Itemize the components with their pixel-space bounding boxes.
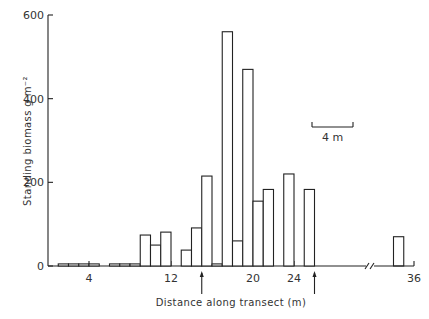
bar <box>58 264 68 266</box>
biomass-histogram: 0200400600 412202436 4 m Standing biomas… <box>0 0 429 319</box>
bar <box>120 264 130 266</box>
bar <box>263 189 273 266</box>
bar <box>130 264 140 266</box>
bar <box>253 201 263 266</box>
bar <box>69 264 79 266</box>
bar <box>243 69 253 266</box>
x-tick-label: 24 <box>287 272 301 285</box>
bar <box>284 174 294 266</box>
arrowhead-icon <box>313 271 317 277</box>
bar <box>181 250 191 266</box>
arrowhead-icon <box>200 271 204 277</box>
bar <box>110 264 120 266</box>
bar <box>151 245 161 266</box>
x-tick-label: 4 <box>86 272 93 285</box>
y-tick-label: 600 <box>23 9 44 22</box>
bar <box>89 264 99 266</box>
bar <box>202 176 212 266</box>
bar <box>394 237 404 266</box>
bar <box>140 235 150 266</box>
x-axis-label: Distance along transect (m) <box>156 297 307 308</box>
bar <box>304 189 314 266</box>
x-tick-label: 36 <box>407 272 421 285</box>
bar <box>222 32 232 266</box>
bar <box>212 264 222 266</box>
scale-bar-label: 4 m <box>322 131 343 144</box>
y-axis-label: Standing biomass g m⁻² <box>22 76 33 206</box>
bar <box>161 232 171 266</box>
bar <box>233 241 243 266</box>
x-tick-label: 20 <box>246 272 260 285</box>
y-tick-label: 0 <box>37 260 44 273</box>
bar <box>79 264 89 266</box>
bar <box>192 228 202 266</box>
axis-break-mark <box>370 263 374 269</box>
x-tick-label: 12 <box>164 272 178 285</box>
